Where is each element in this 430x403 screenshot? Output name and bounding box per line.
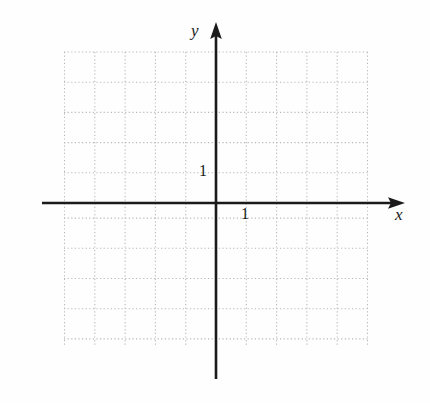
coordinate-plane-figure: y x 1 1	[0, 0, 430, 403]
x-axis-unit-tick-label: 1	[241, 206, 249, 222]
y-axis-label: y	[191, 22, 199, 39]
x-axis-label: x	[395, 206, 403, 223]
y-axis-unit-tick-label: 1	[199, 163, 207, 179]
axis-lines	[42, 22, 405, 379]
graph-canvas	[0, 0, 430, 403]
